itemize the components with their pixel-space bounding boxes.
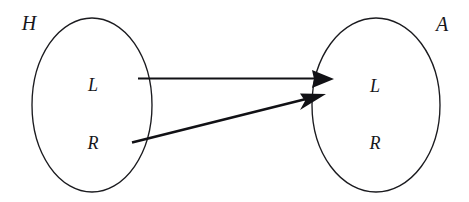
set-label-h: H <box>21 12 38 34</box>
arrow-hl-to-al-head <box>312 70 334 88</box>
member-label-a-l: L <box>369 76 380 96</box>
arrow-hl-to-al <box>138 70 334 88</box>
set-outline-a <box>312 18 440 192</box>
set-outline-h <box>32 18 152 192</box>
member-label-h-r: R <box>87 133 99 153</box>
member-label-h-l: L <box>87 75 98 95</box>
arrow-hr-to-al-shaft <box>132 99 306 143</box>
mapping-diagram: H L R A L R <box>0 0 469 202</box>
member-label-a-r: R <box>369 133 381 153</box>
set-label-a: A <box>434 13 449 35</box>
arrow-hr-to-al <box>132 94 326 143</box>
arrow-hr-to-al-head <box>300 94 326 111</box>
